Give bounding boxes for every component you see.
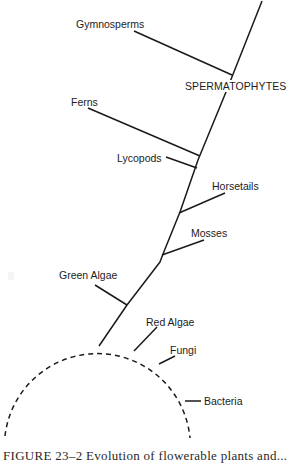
label-spermatophytes: SPERMATOPHYTES	[184, 80, 287, 92]
branch-green-algae	[95, 285, 127, 305]
label-fungi: Fungi	[170, 344, 196, 356]
main-stem-line	[99, 1, 262, 346]
label-ferns: Ferns	[71, 96, 98, 108]
branch-fungi	[159, 356, 175, 364]
branch-gymnosperms	[134, 31, 232, 75]
label-red-algae: Red Algae	[146, 316, 194, 328]
figure-caption: FIGURE 23–2 Evolution of flowerable plan…	[3, 449, 287, 463]
branch-red-algae	[134, 327, 157, 351]
label-bacteria: Bacteria	[204, 395, 243, 407]
label-lycopods: Lycopods	[117, 152, 162, 164]
branch-ferns	[88, 108, 200, 156]
scan-noise	[8, 272, 14, 280]
branch-lycopods	[166, 157, 197, 168]
label-horsetails: Horsetails	[212, 180, 259, 192]
origin-dashed-arc	[5, 354, 190, 438]
label-mosses: Mosses	[191, 227, 227, 239]
label-green-algae: Green Algae	[59, 269, 117, 281]
label-gymnosperms: Gymnosperms	[76, 18, 144, 30]
